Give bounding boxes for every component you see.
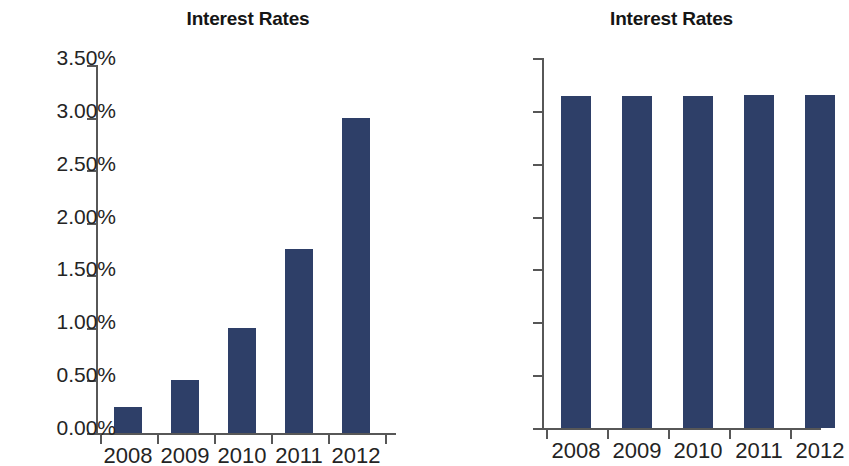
x-axis-tick xyxy=(328,435,330,444)
y-axis-tick xyxy=(533,375,542,377)
x-axis-tick-label: 2012 xyxy=(316,445,396,466)
y-axis-tick-label: 3.00% xyxy=(0,100,116,121)
chart-title-left: Interest Rates xyxy=(45,8,451,30)
x-axis-line xyxy=(96,433,396,435)
bar-2012 xyxy=(342,118,370,433)
y-axis-tick-label: 0.50% xyxy=(0,364,116,385)
chart-right-interest-rates-fullscale: Interest Rates 3.50%3.00%2.50%2.00%1.50%… xyxy=(410,0,821,466)
y-axis-tick-label: 1.50% xyxy=(0,258,116,279)
y-axis-tick xyxy=(533,428,542,430)
chart-left-interest-rates-zoomed: Interest Rates 3.154%3.152%3.150%3.148%3… xyxy=(0,0,410,466)
bar-2010 xyxy=(228,328,256,433)
x-axis-line xyxy=(542,428,821,430)
y-axis-tick xyxy=(533,58,542,60)
bar-2011 xyxy=(285,249,313,433)
x-axis-tick xyxy=(790,430,792,439)
y-axis-tick xyxy=(533,269,542,271)
x-axis-tick xyxy=(214,435,216,444)
x-axis-tick xyxy=(607,430,609,439)
y-axis-tick xyxy=(533,164,542,166)
x-axis-tick xyxy=(271,435,273,444)
y-axis-tick xyxy=(533,111,542,113)
bar-2012 xyxy=(805,95,835,428)
x-axis-tick xyxy=(385,435,387,444)
bar-2008 xyxy=(561,96,591,428)
bar-2011 xyxy=(744,95,774,428)
x-axis-tick xyxy=(668,430,670,439)
y-axis-tick xyxy=(533,217,542,219)
y-axis-tick-label: 0.00% xyxy=(0,417,116,438)
bar-2009 xyxy=(622,96,652,428)
bar-2010 xyxy=(683,96,713,428)
y-axis-tick-label: 1.00% xyxy=(0,311,116,332)
bar-2009 xyxy=(171,380,199,433)
x-axis-tick-label: 2012 xyxy=(780,440,849,462)
bar-2008 xyxy=(114,407,142,433)
x-axis-tick xyxy=(546,430,548,439)
chart-title-right: Interest Rates xyxy=(466,8,849,30)
y-axis-line xyxy=(542,58,544,430)
y-axis-tick-label: 3.50% xyxy=(0,47,116,68)
x-axis-tick xyxy=(157,435,159,444)
x-axis-tick xyxy=(729,430,731,439)
y-axis-tick-label: 2.50% xyxy=(0,153,116,174)
y-axis-tick-label: 2.00% xyxy=(0,206,116,227)
y-axis-tick xyxy=(533,322,542,324)
